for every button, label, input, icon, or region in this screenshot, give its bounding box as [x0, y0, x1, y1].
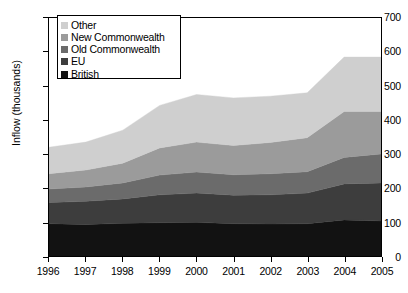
y-tick-label: 700	[384, 11, 401, 23]
legend-swatch-icon	[61, 34, 68, 41]
legend-item[interactable]: Old Commonwealth	[61, 44, 180, 56]
legend-rows: OtherNew CommonwealthOld CommonwealthEUB…	[61, 19, 180, 80]
legend-label: New Commonwealth	[71, 32, 165, 43]
x-tick-label: 2005	[371, 265, 394, 277]
legend-label: EU	[71, 56, 85, 67]
x-tick-mark	[159, 257, 160, 262]
x-tick-mark	[122, 257, 123, 262]
x-tick-label: 2000	[185, 265, 208, 277]
area-band-british	[49, 220, 381, 256]
chart-legend: OtherNew CommonwealthOld CommonwealthEUB…	[57, 15, 181, 79]
x-tick-label: 1996	[37, 265, 60, 277]
legend-item[interactable]: New Commonwealth	[61, 31, 180, 43]
legend-item[interactable]: Other	[61, 19, 180, 31]
x-tick-label: 1997	[74, 265, 97, 277]
y-tick-label: 200	[384, 182, 401, 194]
legend-label: Old Commonwealth	[71, 44, 160, 55]
y-tick-mark	[43, 51, 48, 52]
y-tick-label: 400	[384, 114, 401, 126]
x-tick-label: 2003	[296, 265, 319, 277]
x-tick-mark	[85, 257, 86, 262]
x-tick-mark	[308, 257, 309, 262]
y-tick-label: 100	[384, 217, 401, 229]
y-tick-label: 300	[384, 148, 401, 160]
y-tick-mark	[43, 154, 48, 155]
y-tick-label: 500	[384, 80, 401, 92]
y-tick-label: 600	[384, 45, 401, 57]
legend-swatch-icon	[61, 22, 68, 29]
x-tick-mark	[271, 257, 272, 262]
x-tick-mark	[382, 257, 383, 262]
legend-item[interactable]: British	[61, 68, 180, 80]
x-tick-label: 2004	[334, 265, 357, 277]
chart-root: Inflow (thousands) 010020030040050060070…	[0, 0, 408, 293]
y-tick-mark	[43, 120, 48, 121]
x-tick-label: 2001	[222, 265, 245, 277]
legend-label: Other	[71, 20, 96, 31]
x-tick-label: 1999	[148, 265, 171, 277]
legend-swatch-icon	[61, 46, 68, 53]
y-tick-mark	[43, 188, 48, 189]
x-tick-mark	[345, 257, 346, 262]
legend-item[interactable]: EU	[61, 56, 180, 68]
x-tick-mark	[196, 257, 197, 262]
y-axis-title: Inflow (thousands)	[10, 33, 22, 173]
y-tick-mark	[43, 17, 48, 18]
legend-swatch-icon	[61, 58, 68, 65]
x-tick-mark	[234, 257, 235, 262]
legend-label: British	[71, 69, 99, 80]
x-tick-label: 1998	[111, 265, 134, 277]
y-tick-label: 0	[395, 251, 401, 263]
y-axis: Inflow (thousands)	[0, 0, 48, 293]
x-tick-label: 2002	[259, 265, 282, 277]
y-tick-mark	[43, 223, 48, 224]
x-tick-mark	[48, 257, 49, 262]
y-tick-mark	[43, 86, 48, 87]
legend-swatch-icon	[61, 71, 68, 78]
